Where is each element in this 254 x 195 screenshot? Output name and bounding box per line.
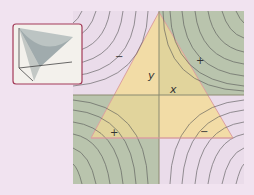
plot-area: [73, 11, 244, 184]
sign-top-right: +: [196, 55, 204, 66]
y-label: y: [147, 69, 155, 82]
sign-bottom-left: +: [110, 127, 118, 138]
inset-saddle-surface: [13, 24, 82, 84]
sign-top-left: −: [115, 51, 123, 62]
saddle-contour-diagram: y x − + + −: [0, 0, 254, 195]
sign-bottom-right: −: [200, 126, 208, 137]
x-label: x: [169, 83, 177, 96]
